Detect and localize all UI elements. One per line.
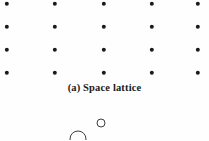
lattice-point bbox=[196, 48, 200, 52]
small-atom bbox=[97, 119, 106, 128]
lattice-point bbox=[53, 71, 57, 75]
lattice-point bbox=[5, 48, 9, 52]
lattice-point bbox=[53, 48, 57, 52]
lattice-point bbox=[150, 2, 154, 6]
lattice-dot-grid bbox=[0, 0, 209, 80]
figure-caption: (a) Space lattice bbox=[0, 82, 209, 93]
lattice-point bbox=[196, 71, 200, 75]
lattice-point bbox=[150, 48, 154, 52]
lattice-point bbox=[5, 25, 9, 29]
lattice-point bbox=[53, 25, 57, 29]
lattice-point bbox=[5, 71, 9, 75]
lattice-point bbox=[196, 2, 200, 6]
lattice-point bbox=[53, 2, 57, 6]
lattice-point bbox=[150, 71, 154, 75]
lattice-point bbox=[102, 2, 106, 6]
lattice-point bbox=[150, 25, 154, 29]
lattice-point bbox=[102, 71, 106, 75]
lattice-point bbox=[5, 2, 9, 6]
lattice-point bbox=[102, 25, 106, 29]
crystal-structure-figure bbox=[0, 100, 209, 140]
lattice-point bbox=[102, 48, 106, 52]
space-lattice-figure: (a) Space lattice bbox=[0, 0, 209, 140]
large-atom bbox=[70, 131, 87, 141]
lattice-point bbox=[196, 25, 200, 29]
